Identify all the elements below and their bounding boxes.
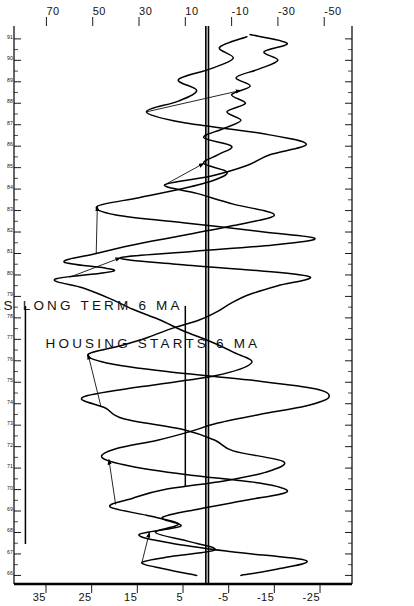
year-tick-label: 81 [7,248,13,254]
year-tick-label: 69 [7,506,13,512]
chart-canvas: 3525155-5-15-2570503010-10-30-50 6667686… [0,0,414,606]
left-axis-tick-label: -5 [218,591,229,603]
legend-label-us-treas-long-term: US TREAS LONG TERM 6 MA [0,298,183,313]
right-axis-tick-label: 10 [185,5,198,17]
year-tick-label: 83 [7,206,13,212]
year-tick-label: 88 [7,98,13,104]
year-tick-label: 90 [7,55,13,61]
year-tick-label: 86 [7,141,13,147]
year-tick-label: 68 [7,527,13,533]
year-tick-label: 67 [7,549,13,555]
right-axis-tick-label: 70 [46,5,59,17]
zero-lines [206,26,209,584]
year-tick-label: 82 [7,227,13,233]
chart-page: 3525155-5-15-2570503010-10-30-50 6667686… [0,0,414,606]
year-tick-label: 72 [7,442,13,448]
lead-arrow-annotation [165,163,204,184]
year-tick-label: 89 [7,77,13,83]
year-tick-label: 87 [7,120,13,126]
year-tick-label: 77 [7,334,13,340]
year-tick-label: 73 [7,420,13,426]
lead-arrow-annotation [96,206,97,253]
lead-arrow-annotation [88,354,101,406]
left-axis-tick-label: 35 [33,591,46,603]
year-tick-label: 85 [7,163,13,169]
year-tick-label: 66 [7,570,13,576]
year-tick-label: 91 [7,34,13,40]
right-axis-tick-label: 30 [139,5,152,17]
year-tick-label: 75 [7,377,13,383]
left-axis-tick-label: -15 [257,591,274,603]
left-axis-tick-label: 5 [176,591,183,603]
left-axis-tick-label: 25 [78,591,91,603]
lead-arrow-annotation [109,460,116,505]
dual-axis-line-chart: 3525155-5-15-2570503010-10-30-50 6667686… [0,0,414,606]
year-tick-label: 78 [7,313,13,319]
left-axis-tick-label: 15 [124,591,137,603]
right-axis-tick-label: 50 [93,5,106,17]
year-tick-label: 71 [7,463,13,469]
year-tick-label: 74 [7,399,13,405]
year-tick-label: 80 [7,270,13,276]
left-axis-tick-label: -25 [303,591,320,603]
right-axis-tick-label: -50 [324,5,341,17]
year-tick-label: 76 [7,356,13,362]
year-tick-label: 84 [7,184,13,190]
rotated-chart-wrapper: 3525155-5-15-2570503010-10-30-50 6667686… [0,0,414,606]
year-tick-label: 70 [7,485,13,491]
right-axis-tick-label: -30 [278,5,295,17]
right-axis-tick-label: -10 [232,5,249,17]
year-tick-label: 79 [7,291,13,297]
legend-label-housing-starts: HOUSING STARTS 6 MA [45,336,260,351]
